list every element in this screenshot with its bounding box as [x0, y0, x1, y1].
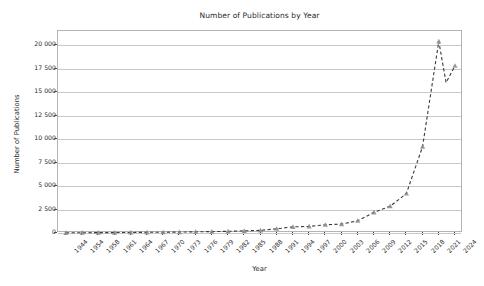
x-tick-label: 1961 — [121, 238, 137, 254]
x-tick-label: 1985 — [251, 238, 267, 254]
x-tick-label: 1994 — [300, 238, 316, 254]
x-tick-label: 1944 — [73, 238, 89, 254]
chart-figure: Number of Publications by Year Number of… — [0, 0, 484, 286]
data-point-marker — [339, 221, 344, 226]
x-tick-label: 1954 — [89, 238, 105, 254]
x-tick-label: 2003 — [348, 238, 364, 254]
x-tick-label: 1997 — [316, 238, 332, 254]
x-tick-label: 1970 — [170, 238, 186, 254]
chart-title: Number of Publications by Year — [57, 11, 462, 20]
y-tick-label: 15 000 — [0, 87, 56, 94]
series-line — [66, 41, 455, 232]
data-point-marker — [371, 210, 376, 215]
series-markers — [63, 39, 457, 235]
x-tick-label: 1973 — [186, 238, 202, 254]
x-tick-label: 2000 — [332, 238, 348, 254]
y-tick-label: 20 000 — [0, 40, 56, 47]
plot-area — [57, 30, 462, 232]
x-tick-label: 1991 — [283, 238, 299, 254]
y-tick-label: 2 500 — [0, 205, 56, 212]
y-tick-label: 10 000 — [0, 134, 56, 141]
data-point-marker — [452, 63, 457, 68]
x-tick-label: 2018 — [429, 238, 445, 254]
x-tick-label: 2024 — [462, 238, 478, 254]
x-tick-label: 1976 — [202, 238, 218, 254]
y-tick-label: 7 500 — [0, 158, 56, 165]
x-tick-label: 1964 — [137, 238, 153, 254]
gridline — [58, 233, 461, 234]
data-point-marker — [420, 144, 425, 149]
y-tick-label: 12 500 — [0, 111, 56, 118]
x-tick-label: 2021 — [445, 238, 461, 254]
x-tick-label: 1979 — [218, 238, 234, 254]
data-point-marker — [404, 191, 409, 196]
x-tick-label: 2009 — [381, 238, 397, 254]
x-tick-label: 1958 — [105, 238, 121, 254]
data-point-marker — [177, 229, 182, 234]
x-tick-label: 1967 — [154, 238, 170, 254]
y-tick-label: 5 000 — [0, 181, 56, 188]
y-tick-label: 0 — [0, 228, 56, 235]
x-tick-label: 1982 — [235, 238, 251, 254]
y-tick-mark — [54, 232, 57, 233]
x-tick-label: 2006 — [364, 238, 380, 254]
data-series-publications — [58, 31, 463, 233]
data-point-marker — [436, 39, 441, 44]
x-axis-label: Year — [57, 265, 462, 273]
x-tick-label: 1988 — [267, 238, 283, 254]
x-tick-label: 2012 — [397, 238, 413, 254]
y-tick-label: 17 500 — [0, 64, 56, 71]
data-point-marker — [355, 218, 360, 223]
x-tick-label: 2015 — [413, 238, 429, 254]
